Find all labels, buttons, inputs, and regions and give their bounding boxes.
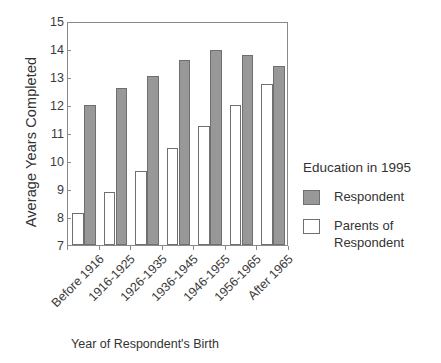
bar-parents-of-respondent — [198, 126, 210, 245]
y-tick-label: 15 — [42, 15, 64, 29]
y-tick-labels: 789101112131415 — [40, 22, 64, 246]
x-tick-mark — [256, 246, 257, 250]
bar-respondent — [242, 55, 254, 245]
legend-label-respondent: Respondent — [334, 189, 404, 205]
bar-respondent — [179, 60, 191, 245]
y-tick-label: 9 — [42, 183, 64, 197]
y-tick-mark — [67, 134, 71, 135]
bar-respondent — [210, 50, 222, 245]
y-tick-mark — [67, 218, 71, 219]
legend-title: Education in 1995 — [303, 160, 439, 175]
y-tick-label: 8 — [42, 211, 64, 225]
x-tick-mark — [225, 246, 226, 250]
bar-parents-of-respondent — [104, 192, 116, 245]
x-tick-mark — [193, 246, 194, 250]
y-tick-label: 7 — [42, 239, 64, 253]
y-tick-label: 10 — [42, 155, 64, 169]
bar-parents-of-respondent — [72, 213, 84, 245]
y-tick-label: 14 — [42, 43, 64, 57]
bar-respondent — [84, 105, 96, 245]
plot-area — [67, 22, 288, 246]
education-bar-chart: Average Years Completed 789101112131415 … — [0, 0, 441, 363]
y-tick-mark — [67, 50, 71, 51]
x-tick-mark — [67, 246, 68, 250]
bar-parents-of-respondent — [230, 105, 242, 245]
y-tick-mark — [67, 78, 71, 79]
legend-label-parents-line1: Parents of — [334, 218, 393, 233]
bar-respondent — [147, 76, 159, 245]
y-tick-label: 12 — [42, 99, 64, 113]
legend-label-parents-line2: Respondent — [334, 235, 404, 250]
bar-respondent — [273, 66, 285, 245]
bar-parents-of-respondent — [167, 148, 179, 245]
x-tick-mark — [99, 246, 100, 250]
bar-respondent — [116, 88, 128, 245]
y-tick-label: 11 — [42, 127, 64, 141]
y-tick-label: 13 — [42, 71, 64, 85]
legend-item-parents[interactable]: Parents ofRespondent — [303, 218, 439, 251]
legend-label-parents: Parents ofRespondent — [334, 218, 404, 251]
legend: Education in 1995 Respondent Parents ofR… — [303, 160, 439, 264]
x-tick-mark — [130, 246, 131, 250]
y-tick-mark — [67, 162, 71, 163]
y-tick-mark — [67, 190, 71, 191]
bar-parents-of-respondent — [135, 171, 147, 245]
legend-swatch-respondent-icon — [303, 190, 320, 205]
x-axis-title: Year of Respondent's Birth — [0, 337, 290, 351]
legend-item-respondent[interactable]: Respondent — [303, 189, 439, 205]
y-axis-title: Average Years Completed — [23, 37, 39, 247]
x-tick-mark — [288, 246, 289, 250]
legend-swatch-parents-icon — [303, 219, 320, 234]
x-tick-mark — [162, 246, 163, 250]
bars-layer — [68, 23, 287, 245]
bar-parents-of-respondent — [261, 84, 273, 245]
y-tick-mark — [67, 106, 71, 107]
